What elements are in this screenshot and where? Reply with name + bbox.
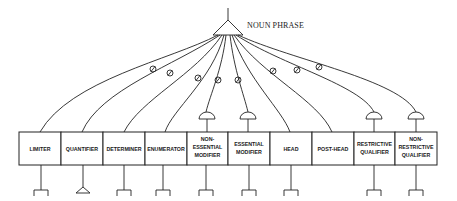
label-quantifier: QUANTIFIER — [66, 146, 99, 152]
label-nonessential-line2: ESSENTIAL — [193, 144, 223, 150]
bracket-icon — [199, 165, 213, 196]
bracket-icon — [242, 165, 256, 196]
label-limiter: LIMITER — [29, 146, 50, 152]
label-head: HEAD — [283, 146, 298, 152]
optional-marker-icon — [195, 75, 201, 81]
optional-marker-icon — [316, 64, 322, 70]
bracket-icon — [34, 165, 48, 196]
noun-phrase-diagram: NOUN PHRASE — [0, 0, 457, 201]
semicircle-icon — [240, 112, 256, 132]
label-posthead: POST-HEAD — [318, 146, 349, 152]
branch-nonessential-modifier — [206, 35, 226, 112]
optional-marker-icon — [270, 68, 276, 74]
bracket-icon — [284, 165, 298, 196]
label-restrictive-line1: RESTRICTIVE — [357, 141, 392, 147]
branch-head — [232, 35, 290, 132]
optional-marker-icon — [167, 70, 173, 76]
triangle-icon — [76, 165, 90, 193]
optional-marker-icon — [294, 67, 300, 73]
label-nonrestrictive-line3: QUALIFIER — [402, 152, 431, 158]
multiple-markers — [199, 112, 424, 132]
bracket-icon — [409, 165, 423, 196]
branch-nonrestrictive-qualifier — [238, 35, 416, 112]
root-triangle-icon — [213, 20, 243, 35]
root-label: NOUN PHRASE — [247, 21, 304, 30]
label-enumerator: ENUMERATOR — [147, 146, 185, 152]
semicircle-icon — [199, 112, 215, 132]
bottom-connectors — [34, 165, 423, 196]
optional-marker-icon — [150, 66, 156, 72]
label-restrictive-line2: QUALIFIER — [360, 149, 389, 155]
root-node: NOUN PHRASE — [213, 8, 304, 35]
branches — [40, 35, 416, 132]
label-essential-line2: MODIFIER — [236, 149, 262, 155]
branch-limiter — [40, 35, 218, 132]
constituent-row: LIMITER QUANTIFIER DETERMINER ENUMERATOR… — [19, 132, 437, 165]
semicircle-icon — [408, 112, 424, 132]
branch-essential-modifier — [230, 35, 248, 112]
bracket-icon — [117, 165, 131, 196]
optional-marker-icon — [235, 77, 241, 83]
bracket-icon — [367, 165, 381, 196]
label-nonrestrictive-line1: NON- — [409, 136, 423, 142]
branch-posthead — [234, 35, 332, 132]
label-nonessential-line3: MODIFIER — [195, 152, 221, 158]
bracket-icon — [156, 165, 170, 196]
label-nonrestrictive-line2: RESTRICTIVE — [398, 144, 433, 150]
label-determiner: DETERMINER — [106, 146, 141, 152]
label-nonessential-line1: NON- — [201, 136, 215, 142]
label-essential-line1: ESSENTIAL — [234, 141, 264, 147]
semicircle-icon — [366, 112, 382, 132]
